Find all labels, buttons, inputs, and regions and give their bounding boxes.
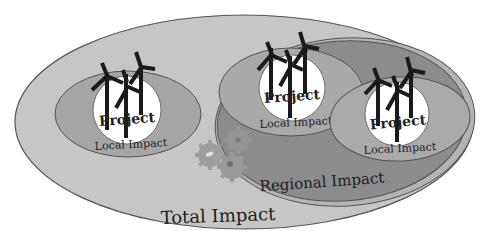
total-impact-label: Total Impact	[160, 203, 276, 228]
impact-diagram: Project Local Impact Project Local Impac…	[0, 0, 491, 244]
